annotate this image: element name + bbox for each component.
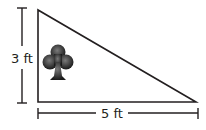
base-label: 5 ft (101, 106, 123, 121)
club-icon (43, 45, 74, 81)
height-label: 3 ft (11, 51, 33, 66)
triangle-diagram: 3 ft 5 ft (0, 0, 206, 130)
